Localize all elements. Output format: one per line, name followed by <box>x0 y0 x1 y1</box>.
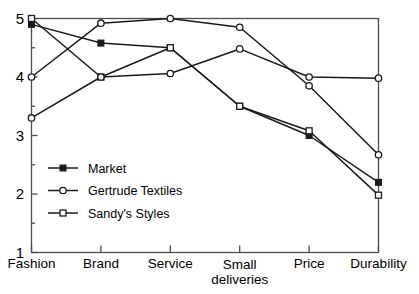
legend-label: Gertrude Textiles <box>88 184 182 198</box>
x-tick-label: Durability <box>331 257 419 271</box>
series-series-4 <box>28 46 381 121</box>
y-tick-label: 3 <box>2 128 24 143</box>
chart-canvas: MarketGertrude TextilesSandy's Styles <box>0 0 419 294</box>
y-axis-ticks <box>32 19 38 253</box>
legend-item-1[interactable]: Market <box>48 162 127 176</box>
legend: MarketGertrude TextilesSandy's Styles <box>48 162 182 221</box>
legend-item-2[interactable]: Gertrude Textiles <box>48 184 182 198</box>
series-sandy-s-styles <box>29 16 382 199</box>
legend-label: Sandy's Styles <box>88 207 170 221</box>
plot-frame <box>32 19 379 253</box>
legend-label: Market <box>88 162 127 176</box>
y-tick-label: 5 <box>2 11 24 26</box>
y-tick-label: 4 <box>2 69 24 84</box>
x-axis-ticks <box>32 246 379 253</box>
y-tick-label: 2 <box>2 186 24 201</box>
legend-item-3[interactable]: Sandy's Styles <box>48 207 170 221</box>
line-chart: MarketGertrude TextilesSandy's Styles 12… <box>0 0 419 294</box>
series-gertrude-textiles <box>28 15 381 158</box>
series-market <box>29 21 382 185</box>
